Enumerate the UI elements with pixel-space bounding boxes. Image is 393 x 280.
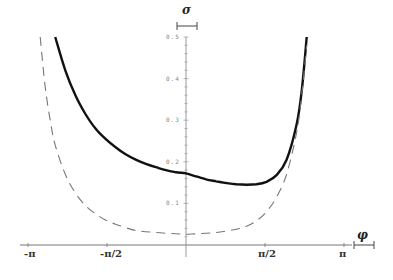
x-tick-label: -π [24, 248, 35, 259]
y-tick-label: 0.1 [166, 199, 180, 206]
x-tick-label: π/2 [258, 248, 276, 259]
axes [20, 22, 374, 257]
y-tick-label: 0.4 [166, 75, 180, 82]
x-tick-label: -π/2 [100, 248, 122, 259]
y-tick-label: 0.2 [166, 158, 180, 165]
y-tick-label: 0.3 [166, 116, 180, 123]
x-tick-label: π [339, 248, 346, 259]
y-axis-name: σ [182, 3, 191, 17]
plot-area [0, 0, 393, 280]
y-tick-label: 0.5 [166, 33, 180, 40]
solid-curve [55, 37, 307, 185]
x-axis-name: φ [357, 228, 368, 242]
